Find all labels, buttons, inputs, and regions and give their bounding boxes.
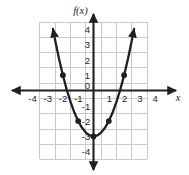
- x-tick-label: 4: [153, 93, 158, 104]
- y-tick-label: -4: [82, 146, 90, 157]
- data-point: [106, 118, 112, 124]
- y-tick-label: -2: [82, 116, 90, 127]
- x-tick-label: -2: [59, 93, 67, 104]
- data-point: [121, 72, 127, 78]
- x-tick-label: -3: [44, 93, 52, 104]
- x-tick-label: 3: [137, 93, 142, 104]
- coordinate-plane-svg: f(x) x -4 -3 -2 -1 1 2 3 4 0 4 3 2 1 -1 …: [0, 0, 189, 175]
- x-tick-label: 2: [122, 93, 127, 104]
- x-tick-label: -4: [28, 93, 36, 104]
- y-tick-label: 4: [85, 24, 90, 35]
- data-point: [75, 118, 81, 124]
- y-tick-label: -1: [82, 101, 90, 112]
- y-axis-label: f(x): [73, 5, 88, 17]
- y-tick-label: 1: [85, 70, 90, 81]
- graph-figure: f(x) x -4 -3 -2 -1 1 2 3 4 0 4 3 2 1 -1 …: [0, 0, 189, 175]
- x-axis-label: x: [175, 92, 181, 103]
- x-tick-label: 1: [107, 93, 112, 104]
- y-tick-label: 2: [85, 55, 90, 66]
- origin-label: 0: [85, 80, 90, 91]
- data-point: [91, 134, 97, 140]
- y-tick-label: 3: [85, 39, 90, 50]
- data-point: [60, 72, 66, 78]
